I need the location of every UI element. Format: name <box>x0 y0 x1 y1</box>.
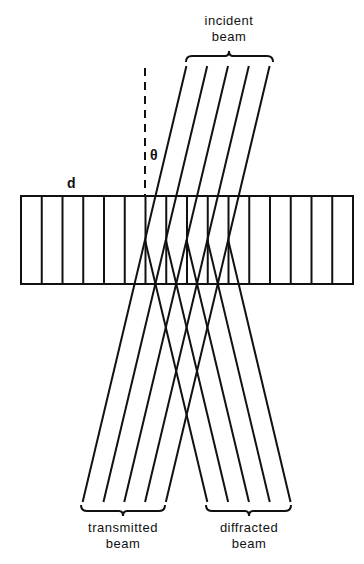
incident-brace <box>186 51 273 62</box>
incident-label-line1: incident <box>205 13 254 28</box>
transmitted-brace <box>81 505 165 516</box>
transmitted-label-line1: transmitted <box>88 520 158 535</box>
diffracted-label-line1: diffracted <box>220 520 278 535</box>
transmitted-label-line2: beam <box>106 536 141 551</box>
diffracted-label-line2: beam <box>232 536 267 551</box>
spacing-d-label: d <box>67 175 76 191</box>
diffracted-brace <box>206 505 291 516</box>
incident-label-line2: beam <box>212 29 247 44</box>
angle-theta-label: θ <box>150 147 158 163</box>
diffraction-diagram: incident beam θ d transmitted beam diffr… <box>0 0 364 564</box>
